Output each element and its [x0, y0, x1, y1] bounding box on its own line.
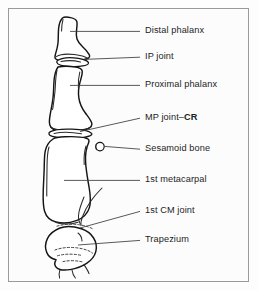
label-ip-joint: IP joint: [145, 52, 174, 61]
label-mp-joint-text: MP joint–: [145, 112, 184, 122]
proximal-phalanx-shape: [49, 66, 92, 131]
label-first-metacarpal: 1st metacarpal: [145, 175, 207, 184]
thumb-anatomy-drawing: [0, 0, 258, 291]
trapezium-shape: [46, 227, 97, 270]
leader-sesamoid-bone: [104, 146, 140, 149]
label-first-cm-joint: 1st CM joint: [145, 206, 195, 215]
label-ip-joint-text: IP joint: [145, 51, 174, 61]
thumb-anatomy-figure: Distal phalanx IP joint Proximal phalanx…: [0, 0, 258, 291]
label-sesamoid-bone: Sesamoid bone: [145, 144, 210, 153]
label-trapezium: Trapezium: [145, 235, 189, 244]
label-distal-phalanx-text: Distal phalanx: [145, 25, 204, 35]
leader-first-cm-joint: [80, 211, 140, 228]
leader-ip-joint: [84, 57, 140, 59]
label-first-cm-joint-text: 1st CM joint: [145, 205, 195, 215]
label-proximal-phalanx-text: Proximal phalanx: [145, 79, 217, 89]
sesamoid-bone-shape: [96, 142, 105, 150]
label-first-metacarpal-text: 1st metacarpal: [145, 174, 207, 184]
label-trapezium-text: Trapezium: [145, 234, 189, 244]
label-distal-phalanx: Distal phalanx: [145, 26, 204, 35]
label-mp-joint-cr-suffix: CR: [184, 112, 197, 122]
first-metacarpal-shape: [43, 137, 90, 223]
label-sesamoid-bone-text: Sesamoid bone: [145, 143, 210, 153]
label-proximal-phalanx: Proximal phalanx: [145, 80, 217, 89]
label-mp-joint-cr: MP joint–CR: [145, 113, 198, 122]
